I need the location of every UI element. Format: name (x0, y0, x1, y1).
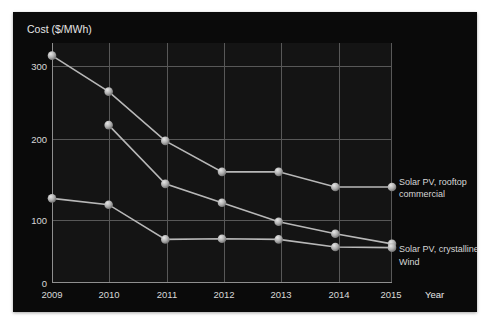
legend-rooftop-line2: commercial (399, 189, 467, 201)
data-point-marker (388, 183, 397, 192)
data-point-marker (274, 217, 283, 226)
data-point-marker (161, 137, 170, 146)
data-point-marker (161, 180, 170, 189)
legend-rooftop-line1: Solar PV, rooftop (399, 177, 467, 189)
legend-item-rooftop: Solar PV, rooftop commercial (399, 177, 467, 200)
data-point-marker (218, 168, 227, 177)
data-point-marker (104, 87, 113, 96)
series-line (109, 125, 392, 244)
data-point-marker (48, 194, 57, 203)
data-point-marker (104, 121, 113, 130)
data-point-marker (104, 200, 113, 209)
data-point-marker (331, 183, 340, 192)
chart-page: Cost ($/MWh) Year 300 200 100 0 2009 201… (0, 0, 490, 326)
legend-item-crystalline: Solar PV, crystalline (399, 244, 477, 256)
series-line (52, 56, 392, 187)
data-point-marker (48, 51, 57, 60)
chart-slide-panel: Cost ($/MWh) Year 300 200 100 0 2009 201… (13, 12, 477, 312)
data-point-marker (161, 235, 170, 244)
data-point-marker (218, 234, 227, 243)
data-point-marker (218, 198, 227, 207)
data-point-marker (274, 235, 283, 244)
data-point-marker (331, 243, 340, 252)
data-point-marker (388, 243, 397, 252)
data-point-marker (274, 168, 283, 177)
data-point-marker (331, 229, 340, 238)
legend-item-wind: Wind (399, 257, 420, 269)
series-group (48, 51, 397, 252)
